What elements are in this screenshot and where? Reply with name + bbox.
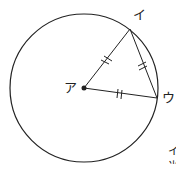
circle-diagram xyxy=(0,0,176,174)
center-point xyxy=(82,86,87,91)
tick-marks xyxy=(101,56,147,99)
segment-a-i xyxy=(84,29,130,88)
label-u: ウ xyxy=(162,91,175,104)
segment-a-u xyxy=(84,88,157,98)
label-a: ア xyxy=(64,81,77,94)
cut-text-2: ⺌ xyxy=(168,161,176,172)
label-i: イ xyxy=(133,8,146,21)
cut-text-1: イ xyxy=(168,146,176,157)
